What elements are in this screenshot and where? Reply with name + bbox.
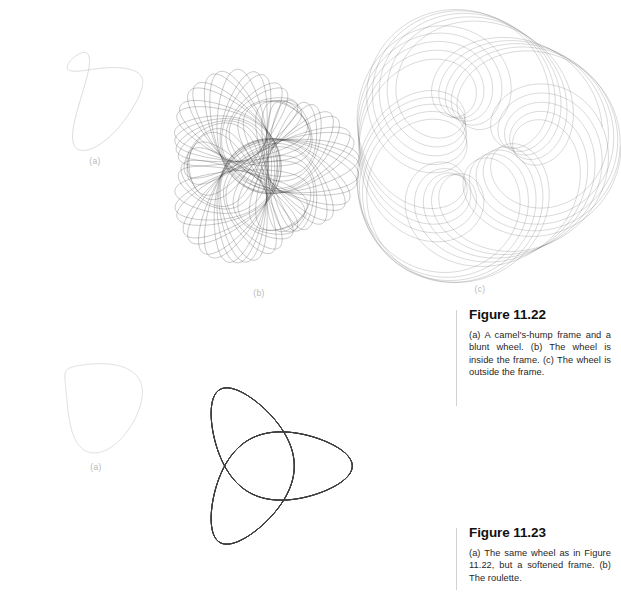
figure-11-23-heading: Figure 11.23 [469, 526, 611, 541]
sublabel-b: (b) [249, 288, 269, 298]
figure-11-22-panel-b [145, 50, 375, 290]
book-page: (a) (b) (c) Figure 11.22 (a) A camel's-h… [0, 0, 621, 593]
figure-11-22-heading: Figure 11.22 [469, 308, 611, 323]
softened-frame-curve [40, 338, 170, 463]
figure-11-22-caption: Figure 11.22 (a) A camel's-hump frame an… [456, 308, 611, 378]
caption-rule [456, 310, 457, 406]
sublabel-c: (c) [470, 284, 490, 294]
figure-11-23-body: (a) The same wheel as in Figure 11.22, b… [469, 547, 611, 584]
sublabel-a: (a) [85, 156, 105, 166]
roulette-outside-curve [368, 26, 588, 278]
figure-11-22-body: (a) A camel's-hump frame and a blunt whe… [469, 329, 611, 379]
caption-rule-2 [456, 528, 457, 590]
sublabel-a-2: (a) [86, 462, 106, 472]
figure-11-23-panel-b [152, 348, 382, 588]
figure-11-23-caption: Figure 11.23 (a) The same wheel as in Fi… [456, 526, 611, 584]
figure-11-22-panel-c [368, 26, 588, 278]
figure-11-23-panel-a [40, 338, 170, 463]
roulette-curve [152, 348, 382, 588]
roulette-inside-curve [145, 50, 375, 290]
